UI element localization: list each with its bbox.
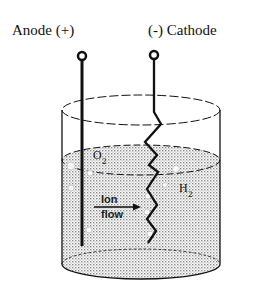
cathode-label: (-) Cathode [148, 22, 217, 39]
anode-terminal-icon [78, 52, 86, 60]
svg-text:O: O [93, 148, 102, 162]
svg-text:2: 2 [188, 189, 193, 199]
svg-text:H: H [179, 181, 188, 195]
electrolyte-liquid [62, 145, 220, 279]
cathode-terminal-icon [150, 51, 158, 59]
anode-label: Anode (+) [12, 22, 74, 39]
svg-text:2: 2 [102, 156, 107, 166]
electrolysis-diagram: Anode (+) (-) Cathode O 2 [0, 0, 268, 296]
ion-flow-label-line1: Ion [101, 193, 118, 205]
ion-flow-label-line2: flow [101, 208, 123, 220]
